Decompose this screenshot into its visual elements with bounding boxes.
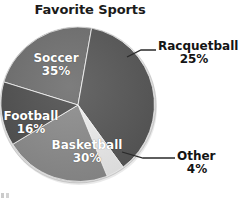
pie-shading-overlay [0,27,156,183]
page-edge-artifact [1,193,17,198]
pie-chart-graphic [0,0,239,199]
pie-chart-figure: Favorite Sports Soccer 35% [0,0,239,199]
